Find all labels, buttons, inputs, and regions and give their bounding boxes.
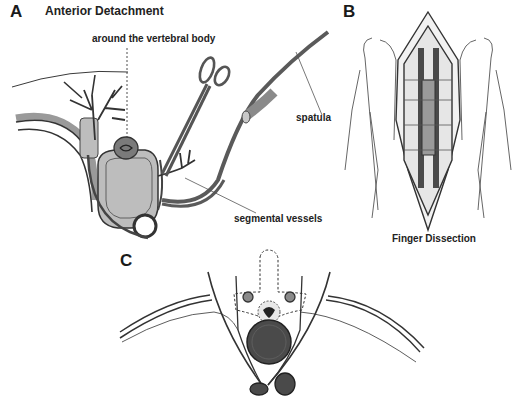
panel-c-letter: C — [120, 251, 132, 271]
panel-a-drawing — [12, 32, 328, 238]
panel-c-drawing — [120, 250, 424, 395]
panel-b-caption: Finger Dissection — [392, 233, 476, 244]
anatomical-figure: A Anterior Detachment around the vertebr… — [0, 0, 530, 407]
panel-b-letter: B — [343, 2, 355, 22]
scissors-drawing — [162, 56, 232, 176]
annotation-segmental-vessels: segmental vessels — [234, 213, 322, 224]
annotation-around-vertebral-body: around the vertebral body — [92, 33, 215, 44]
illustration-artwork — [0, 0, 530, 407]
panel-a-letter: A — [10, 2, 22, 22]
annotation-spatula: spatula — [296, 112, 331, 123]
panel-a-title: Anterior Detachment — [45, 4, 164, 18]
panel-b-drawing — [345, 12, 511, 230]
